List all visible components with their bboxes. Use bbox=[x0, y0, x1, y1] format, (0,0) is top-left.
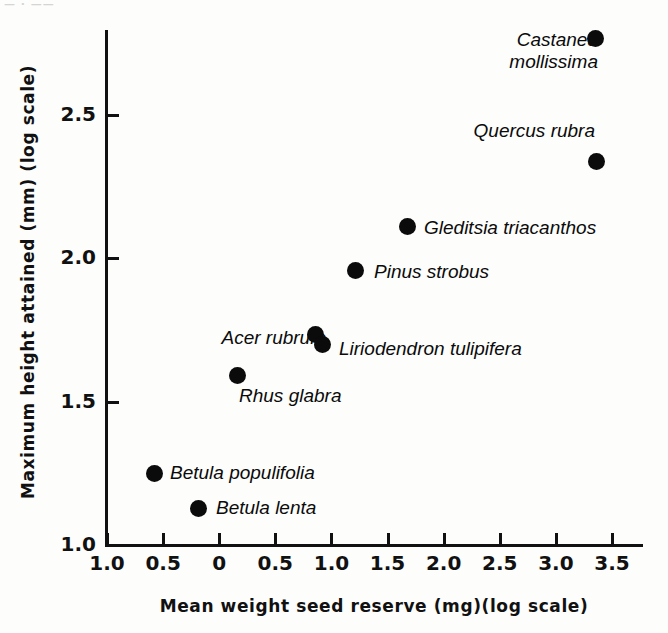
x-axis-ticklabel: 1.5 bbox=[360, 551, 416, 575]
data-point-marker bbox=[399, 218, 416, 235]
data-point-marker bbox=[314, 336, 331, 353]
y-axis-ticklabel: 2.5 bbox=[36, 102, 96, 126]
data-point-label: Castanea mollissima bbox=[458, 29, 598, 73]
x-axis-tick bbox=[387, 533, 390, 544]
x-axis-ticklabel: 0 bbox=[191, 551, 247, 575]
y-axis-ticklabel: 1.5 bbox=[36, 389, 96, 413]
data-point-label: Quercus rubra bbox=[455, 120, 595, 142]
data-point-label: Betula lenta bbox=[216, 497, 316, 519]
figure-scatter-plot: — · —— Maximum height attained (mm) (log… bbox=[0, 0, 668, 633]
data-point-label: Rhus glabra bbox=[239, 385, 341, 407]
data-point-label: Gleditsia triacanthos bbox=[424, 217, 596, 239]
x-axis-ticklabel: 3.0 bbox=[528, 551, 584, 575]
x-axis-line bbox=[105, 544, 643, 547]
y-axis-ticklabel: 2.0 bbox=[36, 245, 96, 269]
data-point-label: Liriodendron tulipifera bbox=[339, 338, 522, 360]
x-axis-ticklabel: 0.5 bbox=[135, 551, 191, 575]
x-axis-tick bbox=[218, 533, 221, 544]
y-axis-title: Maximum height attained (mm) (log scale) bbox=[18, 32, 38, 532]
x-axis-ticklabel: 0.5 bbox=[247, 551, 303, 575]
data-point-marker bbox=[146, 465, 163, 482]
data-point-marker bbox=[190, 500, 207, 517]
x-axis-ticklabel: 3.5 bbox=[584, 551, 640, 575]
y-axis-line bbox=[105, 30, 108, 547]
x-axis-ticklabel: 2.0 bbox=[416, 551, 472, 575]
x-axis-tick bbox=[555, 533, 558, 544]
y-axis-tick bbox=[108, 114, 119, 117]
y-axis-tick bbox=[108, 401, 119, 404]
x-axis-tick bbox=[106, 533, 109, 544]
x-axis-tick bbox=[330, 533, 333, 544]
x-axis-tick bbox=[274, 533, 277, 544]
x-axis-tick bbox=[443, 533, 446, 544]
data-point-marker bbox=[347, 262, 364, 279]
data-point-marker bbox=[588, 153, 605, 170]
x-axis-tick bbox=[499, 533, 502, 544]
y-axis-tick bbox=[108, 257, 119, 260]
x-axis-ticklabel: 2.5 bbox=[472, 551, 528, 575]
data-point-label: Acer rubrum bbox=[186, 327, 326, 349]
data-point-label: Betula populifolia bbox=[170, 462, 315, 484]
x-axis-ticklabel: 1.0 bbox=[303, 551, 359, 575]
x-axis-title: Mean weight seed reserve (mg)(log scale) bbox=[105, 596, 643, 616]
y-axis-ticklabel: 1.0 bbox=[36, 532, 96, 556]
data-point-label: Pinus strobus bbox=[374, 261, 489, 283]
x-axis-tick bbox=[162, 533, 165, 544]
plot-area: Maximum height attained (mm) (log scale)… bbox=[0, 0, 668, 633]
data-point-marker bbox=[229, 367, 246, 384]
x-axis-tick bbox=[611, 533, 614, 544]
